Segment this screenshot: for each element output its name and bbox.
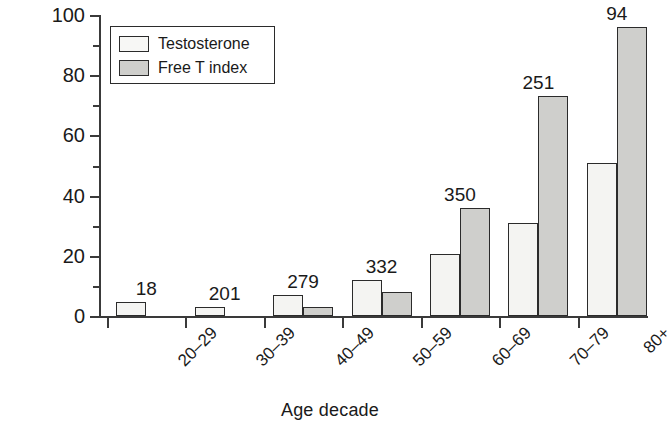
y-axis-tick-labels: 020406080100 [0, 15, 99, 318]
legend-item-free-t-index: Free T index [119, 56, 266, 80]
x-tick-label: 20–29 [175, 324, 220, 369]
y-tick [90, 256, 99, 258]
y-tick [90, 316, 99, 318]
legend-swatch-free-t-index [119, 60, 149, 76]
y-tick-label: 40 [63, 186, 85, 206]
y-tick [90, 196, 99, 198]
legend-swatch-testosterone [119, 36, 149, 52]
y-tick [90, 15, 99, 17]
chart-legend: Testosterone Free T index [110, 26, 275, 84]
legend-label-testosterone: Testosterone [158, 36, 250, 52]
x-tick-label: 80+ [640, 324, 671, 356]
x-axis-tick-labels: 20–2930–3940–4950–5960–6970–7980+ [99, 320, 648, 390]
y-tick-label: 100 [52, 5, 85, 25]
y-tick [90, 135, 99, 137]
y-tick-label: 20 [63, 246, 85, 266]
y-tick-label: 60 [63, 125, 85, 145]
x-tick-label: 60–69 [489, 324, 534, 369]
legend-item-testosterone: Testosterone [119, 32, 266, 56]
x-axis-line [99, 316, 648, 318]
legend-label-free-t-index: Free T index [158, 60, 247, 76]
bar-testosterone [587, 163, 617, 317]
y-tick-label: 0 [74, 306, 85, 326]
y-tick-label: 80 [63, 65, 85, 85]
x-axis-title: Age decade [0, 400, 660, 421]
y-tick [90, 75, 99, 77]
bar-free-t-index [617, 27, 647, 316]
x-tick-label: 50–59 [410, 324, 455, 369]
group-sample-size-label: 94 [606, 4, 627, 23]
x-tick-label: 30–39 [253, 324, 298, 369]
x-tick-label: 70–79 [567, 324, 612, 369]
x-tick-label: 40–49 [332, 324, 377, 369]
